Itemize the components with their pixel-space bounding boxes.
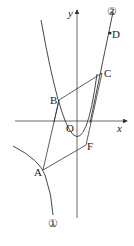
- parabola: [41, 20, 97, 137]
- curve-2-label: ②: [107, 5, 117, 17]
- y-axis-label: y: [67, 7, 73, 19]
- curve-1: [13, 146, 53, 215]
- point-d-label: D: [112, 28, 120, 40]
- curve-1-label: ①: [48, 217, 58, 229]
- point-c-label: C: [104, 67, 111, 79]
- point-f-label: F: [87, 140, 93, 152]
- point-a-label: A: [34, 166, 42, 178]
- segment-af: [43, 145, 86, 170]
- x-axis-label: x: [116, 122, 122, 134]
- origin-label: O: [66, 122, 74, 134]
- segment-cf: [86, 73, 102, 145]
- point-b-label: B: [50, 94, 57, 106]
- diagram-canvas: y x O A B C D F ① ②: [0, 0, 134, 246]
